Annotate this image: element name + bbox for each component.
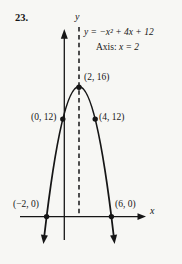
parabola-right-arrow-icon: [110, 235, 117, 244]
equation-label: y = −x² + 4x + 12: [84, 28, 154, 38]
y-axis-label: y: [75, 12, 79, 22]
vertex-point-dot: [76, 85, 81, 90]
point-4-12-label: (4, 12): [99, 113, 124, 123]
x-axis-arrow-icon: [138, 213, 147, 220]
x-intercept-6-dot: [109, 214, 114, 219]
parabola-figure: 23. y y = −x² + 4x + 12 Axis: x = 2 (2, …: [0, 0, 182, 264]
vertex-point-label: (2, 16): [84, 73, 109, 83]
x-intercept-6-label: (6, 0): [115, 200, 136, 210]
point-0-12-label: (0, 12): [31, 113, 56, 123]
plot-canvas: [0, 0, 182, 264]
point-0-12-dot: [60, 116, 65, 121]
axis-note-prefix: Axis:: [96, 42, 119, 52]
axis-note-statement: x = 2: [119, 42, 139, 52]
x-intercept-neg2-dot: [44, 214, 49, 219]
point-4-12-dot: [93, 116, 98, 121]
parabola-left-arrow-icon: [41, 235, 48, 244]
axis-of-symmetry-note: Axis: x = 2: [96, 43, 139, 53]
y-axis-arrow-icon: [61, 29, 68, 39]
x-axis-label: x: [150, 206, 154, 216]
x-intercept-neg2-label: (−2, 0): [13, 200, 39, 210]
problem-number: 23.: [15, 13, 28, 24]
